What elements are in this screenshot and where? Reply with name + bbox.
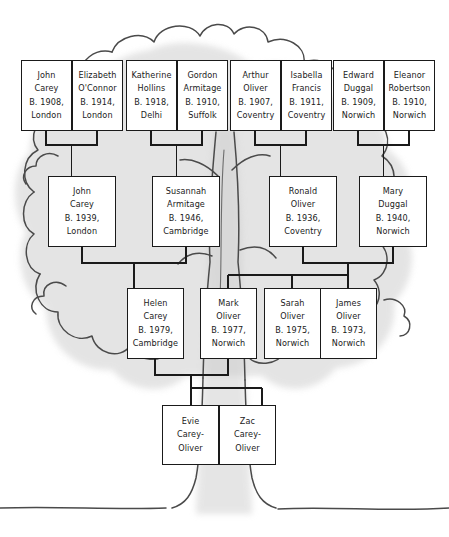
person-node-gordon-armitage[interactable]: Gordon Armitage B. 1910, Suffolk: [177, 60, 228, 131]
person-place: London: [31, 109, 61, 122]
person-place: Norwich: [393, 109, 426, 122]
person-place: Norwich: [276, 337, 309, 350]
person-birth: B. 1907,: [238, 96, 273, 109]
person-family-name: Carey-: [177, 428, 204, 441]
person-place: Norwich: [332, 337, 365, 350]
person-birth: B. 1910,: [392, 96, 427, 109]
person-family-name: Duggal: [344, 82, 373, 95]
person-place: Norwich: [342, 109, 375, 122]
person-place: London: [67, 225, 97, 238]
person-birth: B. 1909,: [341, 96, 376, 109]
person-birth: B. 1918,: [134, 96, 169, 109]
person-family-name: Robertson: [388, 82, 430, 95]
person-node-evie-carey-oliver[interactable]: Evie Carey- Oliver: [162, 405, 219, 465]
person-given-name: James: [336, 297, 361, 310]
person-birth: B. 1975,: [275, 324, 310, 337]
person-node-arthur-oliver[interactable]: Arthur Oliver B. 1907, Coventry: [230, 60, 281, 131]
person-given-name: Katherine: [132, 69, 172, 82]
person-family-name-continued: Oliver: [235, 442, 260, 455]
person-family-name: Oliver: [291, 198, 316, 211]
person-node-john-carey[interactable]: John Carey B. 1939, London: [48, 176, 116, 247]
person-place: Norwich: [212, 337, 245, 350]
union-john-susannah-connector: [82, 247, 186, 288]
person-node-edward-duggal[interactable]: Edward Duggal B. 1909, Norwich: [333, 60, 384, 131]
person-family-name: Carey-: [234, 428, 261, 441]
person-place: Coventry: [288, 109, 326, 122]
union-helen-mark-connector: [155, 359, 262, 405]
person-given-name: Susannah: [166, 185, 207, 198]
person-given-name: Eleanor: [394, 69, 425, 82]
person-birth: B. 1936,: [286, 212, 321, 225]
person-family-name: Hollins: [138, 82, 166, 95]
person-given-name: Helen: [144, 297, 168, 310]
person-place: Cambridge: [133, 337, 178, 350]
person-node-elizabeth-oconnor[interactable]: Elizabeth O'Connor B. 1914, London: [72, 60, 123, 131]
person-family-name: Oliver: [336, 310, 361, 323]
person-node-zac-carey-oliver[interactable]: Zac Carey- Oliver: [219, 405, 276, 465]
ground-line: [0, 507, 449, 509]
person-family-name: Francis: [292, 82, 321, 95]
person-node-mary-duggal[interactable]: Mary Duggal B. 1940, Norwich: [359, 176, 427, 247]
person-node-sarah-oliver[interactable]: Sarah Oliver B. 1975, Norwich: [264, 288, 321, 359]
person-place: Coventry: [237, 109, 275, 122]
person-node-mark-oliver[interactable]: Mark Oliver B. 1977, Norwich: [200, 288, 257, 359]
person-place: Suffolk: [188, 109, 217, 122]
person-birth: B. 1977,: [211, 324, 246, 337]
person-node-eleanor-robertson[interactable]: Eleanor Robertson B. 1910, Norwich: [384, 60, 435, 131]
union-ronald-mary-connector: [228, 247, 393, 288]
person-given-name: Isabella: [291, 69, 323, 82]
person-given-name: Sarah: [280, 297, 304, 310]
person-place: Norwich: [376, 225, 409, 238]
person-node-susannah-armitage[interactable]: Susannah Armitage B. 1946, Cambridge: [152, 176, 220, 247]
person-birth: B. 1973,: [331, 324, 366, 337]
person-node-isabella-francis[interactable]: Isabella Francis B. 1911, Coventry: [281, 60, 332, 131]
person-node-katherine-hollins[interactable]: Katherine Hollins B. 1918, Delhi: [126, 60, 177, 131]
person-node-ronald-oliver[interactable]: Ronald Oliver B. 1936, Coventry: [269, 176, 337, 247]
person-family-name: Duggal: [378, 198, 407, 211]
union-hollins-armitage-connector: [151, 131, 202, 176]
person-family-name: Armitage: [167, 198, 205, 211]
person-node-helen-carey[interactable]: Helen Carey B. 1979, Cambridge: [127, 288, 184, 359]
person-family-name: Carey: [70, 198, 94, 211]
person-node-james-oliver[interactable]: James Oliver B. 1973, Norwich: [320, 288, 377, 359]
person-birth: B. 1946,: [169, 212, 204, 225]
person-place: London: [82, 109, 112, 122]
person-given-name: Zac: [240, 415, 255, 428]
person-family-name: Carey: [143, 310, 167, 323]
person-given-name: Edward: [343, 69, 374, 82]
person-family-name-continued: Oliver: [178, 442, 203, 455]
person-birth: B. 1914,: [80, 96, 115, 109]
person-given-name: Evie: [182, 415, 200, 428]
person-given-name: John: [38, 69, 56, 82]
person-birth: B. 1910,: [185, 96, 220, 109]
person-given-name: Elizabeth: [78, 69, 116, 82]
person-birth: B. 1979,: [138, 324, 173, 337]
union-duggal-robertson-connector: [358, 131, 409, 176]
union-oliver-francis-connector: [255, 131, 306, 176]
person-family-name: Oliver: [280, 310, 305, 323]
person-given-name: Mary: [383, 185, 403, 198]
person-given-name: Gordon: [187, 69, 217, 82]
family-tree-diagram: John Carey B. 1908, London Elizabeth O'C…: [0, 0, 449, 537]
person-place: Cambridge: [163, 225, 208, 238]
union-carey-oconnor-connector: [46, 131, 97, 176]
person-given-name: Mark: [218, 297, 238, 310]
person-family-name: Carey: [34, 82, 58, 95]
person-family-name: Armitage: [184, 82, 222, 95]
person-given-name: Ronald: [289, 185, 317, 198]
person-family-name: Oliver: [243, 82, 268, 95]
person-birth: B. 1908,: [29, 96, 64, 109]
person-birth: B. 1911,: [289, 96, 324, 109]
person-place: Delhi: [141, 109, 162, 122]
person-place: Coventry: [284, 225, 322, 238]
person-given-name: John: [73, 185, 91, 198]
person-family-name: Oliver: [216, 310, 241, 323]
person-given-name: Arthur: [242, 69, 268, 82]
person-birth: B. 1939,: [65, 212, 100, 225]
person-birth: B. 1940,: [376, 212, 411, 225]
person-node-john-carey-sr[interactable]: John Carey B. 1908, London: [21, 60, 72, 131]
person-family-name: O'Connor: [78, 82, 117, 95]
